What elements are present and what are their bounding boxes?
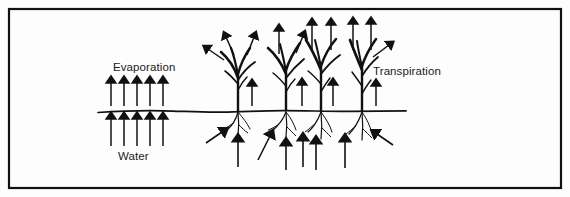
plant-2-roots [268,112,296,137]
plant-4-roots [346,112,372,140]
soil-uptake-arrow [258,136,270,160]
soil-uptake-arrow [377,134,393,145]
evaporation-label: Evaporation [113,61,175,73]
plant-1 [206,37,255,167]
plant-2 [258,30,304,170]
plant-4-soil-arrows [345,134,393,168]
transpiration-arrow [296,36,303,53]
plant-3-foliage [306,39,340,111]
evaporation-arrows-above-ground [111,82,163,106]
plant-3-soil-arrows [303,140,316,170]
transpiration-arrow [373,45,389,57]
soil-uptake-arrow [206,132,222,143]
water-cycle-figure: Evaporation Transpiration Water [0,0,570,197]
plant-1-soil-arrows [206,132,238,167]
transpiration-arrow [226,37,234,55]
soil-water-arrows-below-ground [111,118,163,146]
water-label: Water [118,150,149,162]
plant-1-roots [220,112,250,136]
plant-3-roots [305,112,332,139]
transpiration-label: Transpiration [373,65,441,77]
transpiration-arrow [247,37,254,55]
diagram-canvas: Evaporation Transpiration Water [0,0,570,197]
plant-2-foliage [268,43,304,111]
ground-surface-line [98,111,406,113]
plant-2-soil-arrows [258,136,286,170]
plant-1-foliage [221,48,255,111]
transpiration-arrow [208,49,224,60]
plant-4 [345,23,393,168]
plant-1-transpiration-arrows [208,37,254,106]
plant-3 [303,24,340,170]
